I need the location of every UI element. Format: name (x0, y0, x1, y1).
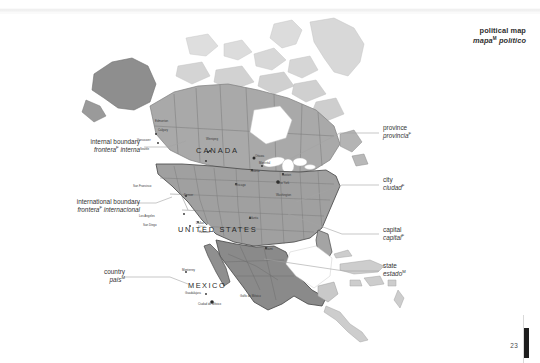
map-region-greenland (270, 18, 364, 76)
gender-marker-feminine: F (402, 183, 405, 188)
page-title-spanish-rest: político (497, 36, 526, 45)
city-label: San Diego (143, 223, 157, 227)
political-map-page: political map mapaM político (0, 0, 540, 363)
page-title-spanish: mapaM político (473, 36, 526, 46)
callout-province-spanish-word: provincia (383, 132, 409, 139)
lesser-antilles (394, 290, 404, 308)
puerto-rico (388, 280, 396, 286)
city-label: Golfo de México (240, 294, 261, 298)
north-america-map: CANADA UNITED STATES MEXICO (78, 14, 408, 344)
callout-state-spanish: estadoM (383, 270, 406, 278)
city-label: Miami (265, 247, 273, 251)
gender-marker-masculine: M (402, 269, 406, 274)
country-label-mexico: MEXICO (188, 281, 226, 290)
callout-internal-boundary: internal boundary fronteraF interna (91, 138, 140, 155)
page-title: political map mapaM político (473, 26, 526, 46)
city-label: Washington (276, 193, 292, 197)
map-region-alaska (82, 58, 156, 122)
country-label-canada: CANADA (196, 146, 239, 155)
city-label: Guadalajara (185, 291, 201, 295)
page-title-spanish-word: mapa (473, 36, 493, 45)
callout-city-spanish-word: ciudad (383, 184, 402, 191)
callout-country-spanish-word: país (109, 276, 121, 283)
gender-marker-feminine: F (409, 131, 412, 136)
city-label: Houston (199, 230, 210, 234)
bahamas (334, 250, 352, 258)
page-number: 23 (510, 342, 518, 349)
callout-city: city ciudadF (383, 176, 404, 193)
callout-internal-boundary-spanish-word: frontera (94, 146, 116, 153)
callout-international-boundary-spanish-rest: internacional (102, 206, 140, 213)
callout-province-spanish: provinciaF (383, 132, 411, 140)
city-label: Winnipeg (206, 137, 218, 141)
callout-internal-boundary-spanish-rest: interna (119, 146, 140, 153)
city-label: Monterrey (182, 268, 196, 272)
cuba (340, 260, 384, 274)
callout-international-boundary-spanish: fronteraF internacional (77, 206, 140, 214)
city-label: Los Angeles (139, 214, 155, 218)
city-label: Montréal (259, 161, 271, 165)
callout-international-boundary-spanish-word: frontera (77, 206, 99, 213)
callout-country-spanish: paísM (104, 276, 125, 284)
city-label: Ciudad de México (198, 302, 222, 306)
page-title-english: political map (473, 26, 526, 36)
city-label: Dallas (196, 221, 205, 225)
city-label: Denver (184, 193, 193, 197)
hispaniola (364, 276, 384, 286)
city-label: Seattle (140, 147, 149, 151)
callout-province: province provinciaF (383, 124, 411, 141)
callout-city-spanish: ciudadF (383, 184, 404, 192)
map-svg: CANADA UNITED STATES MEXICO (78, 14, 408, 344)
city-label: Calgary (158, 128, 169, 132)
city-label: San Francisco (133, 184, 152, 188)
callout-internal-boundary-spanish: fronteraF interna (91, 146, 140, 154)
folio-thumb-tab (524, 328, 529, 358)
gender-marker-masculine: M (122, 275, 126, 280)
city-label: Boston (282, 173, 291, 177)
city-label: Atlanta (249, 216, 258, 220)
gender-marker-feminine: F (401, 233, 404, 238)
city-label: Ottawa (255, 154, 265, 158)
city-label: New York (277, 181, 290, 185)
city-label: Chicago (235, 183, 246, 187)
callout-state: state estadoM (383, 262, 406, 279)
callout-capital-spanish: capitalF (383, 234, 404, 242)
city-label: Edmonton (155, 119, 169, 123)
callout-state-spanish-word: estado (383, 270, 402, 277)
jamaica (350, 280, 362, 286)
callout-international-boundary: international boundary fronteraF interna… (77, 198, 140, 215)
callout-capital-spanish-word: capital (383, 234, 401, 241)
callout-country: country paísM (104, 268, 125, 285)
city-label: Toronto (250, 169, 260, 173)
callout-capital: capital capitalF (383, 226, 404, 243)
